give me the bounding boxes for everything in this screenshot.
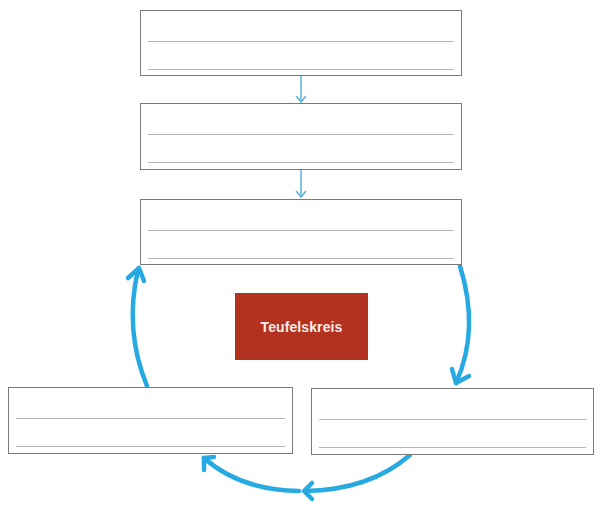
write-line: [148, 134, 454, 135]
box-5[interactable]: [8, 387, 293, 454]
arrow-box1-to-box2: [296, 75, 306, 102]
write-line: [148, 258, 454, 259]
arrow-box3-to-box4: [452, 266, 469, 383]
box-2[interactable]: [140, 103, 462, 170]
arrow-box4-to-box5: [204, 455, 410, 499]
box-4[interactable]: [311, 388, 594, 455]
arrow-box2-to-box3: [296, 170, 306, 197]
write-line: [148, 162, 454, 163]
write-line: [16, 418, 285, 419]
write-line: [16, 446, 285, 447]
box-3[interactable]: [140, 199, 462, 265]
write-line: [148, 230, 454, 231]
center-label: Teufelskreis: [261, 319, 343, 335]
center-label-box: Teufelskreis: [235, 293, 368, 360]
write-line: [319, 447, 586, 448]
box-1[interactable]: [140, 10, 462, 76]
write-line: [148, 69, 454, 70]
arrow-box5-to-box3: [128, 268, 147, 386]
write-line: [319, 419, 586, 420]
write-line: [148, 41, 454, 42]
